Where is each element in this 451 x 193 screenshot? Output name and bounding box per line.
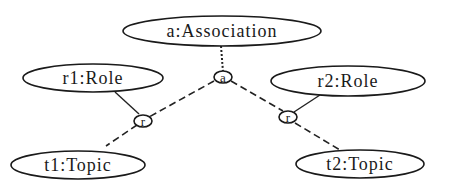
role2-node: r2:Role (271, 66, 425, 96)
role-junction-left-label: r (141, 114, 146, 129)
association-label: a:Association (167, 21, 278, 41)
role-junction-left: r (134, 114, 152, 129)
edge-junction-to-left-role (149, 81, 214, 117)
edge-association-to-junction (221, 46, 223, 72)
role1-label: r1:Role (63, 68, 124, 88)
role2-label: r2:Role (318, 71, 379, 91)
edge-left-role-to-topic1 (106, 125, 137, 146)
association-node: a:Association (123, 16, 321, 46)
edge-right-role-to-topic2 (295, 123, 340, 150)
edge-role2-to-right-role (294, 95, 320, 112)
topic2-label: t2:Topic (326, 154, 394, 174)
topic-map-diagram: a:Association r1:Role r2:Role t1:Topic t… (0, 0, 451, 193)
role-junction-right: r (279, 110, 297, 125)
edges (106, 46, 340, 150)
topic1-label: t1:Topic (44, 155, 112, 175)
role1-node: r1:Role (23, 64, 163, 92)
association-junction: a (214, 70, 232, 85)
association-junction-label: a (220, 70, 226, 85)
topic1-node: t1:Topic (11, 151, 145, 179)
edge-role1-to-left-role (115, 92, 139, 114)
role-junction-right-label: r (286, 110, 291, 125)
topic2-node: t2:Topic (296, 150, 424, 178)
